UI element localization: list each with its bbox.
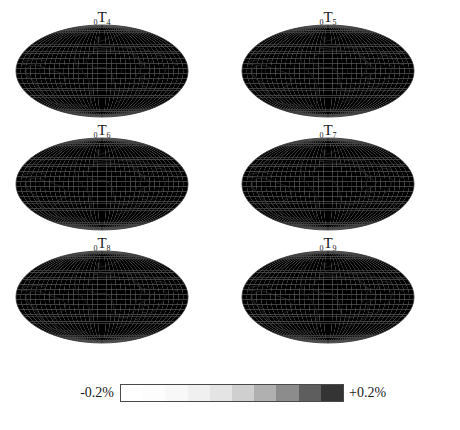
colorbar-band-6: [254, 385, 276, 401]
globe-0T8: [12, 249, 192, 346]
globe-wrap-0T9: [238, 249, 418, 346]
colorbar-band-4: [210, 385, 232, 401]
colorbar-min-label: -0.2%: [58, 382, 114, 404]
panel-0T4: 0T4: [12, 8, 192, 120]
colorbar-band-9: [321, 385, 343, 401]
panel-0T9: 0T9: [238, 234, 418, 346]
colorbar-max-label: +0.2%: [349, 382, 409, 404]
colorbar-band-3: [188, 385, 210, 401]
globe-wrap-0T6: [12, 136, 192, 233]
colorbar-band-7: [276, 385, 298, 401]
globe-0T7: [238, 136, 418, 233]
panel-0T5: 0T5: [238, 8, 418, 120]
colorbar-band-1: [143, 385, 165, 401]
panel-0T7: 0T7: [238, 121, 418, 233]
globe-0T9: [238, 249, 418, 346]
figure-panel-grid: -0.2% +0.2% 0T40T50T60T70T80T9: [0, 0, 460, 430]
globe-0T6: [12, 136, 192, 233]
globe-0T5: [238, 23, 418, 120]
globe-wrap-0T5: [238, 23, 418, 120]
globe-wrap-0T8: [12, 249, 192, 346]
panel-0T8: 0T8: [12, 234, 192, 346]
colorbar-band-0: [121, 385, 143, 401]
globe-wrap-0T7: [238, 136, 418, 233]
panel-0T6: 0T6: [12, 121, 192, 233]
colorbar-group: -0.2% +0.2%: [0, 382, 460, 408]
colorbar-band-2: [165, 385, 187, 401]
colorbar: [120, 384, 344, 402]
globe-0T4: [12, 23, 192, 120]
colorbar-band-5: [232, 385, 254, 401]
globe-wrap-0T4: [12, 23, 192, 120]
colorbar-band-8: [299, 385, 321, 401]
